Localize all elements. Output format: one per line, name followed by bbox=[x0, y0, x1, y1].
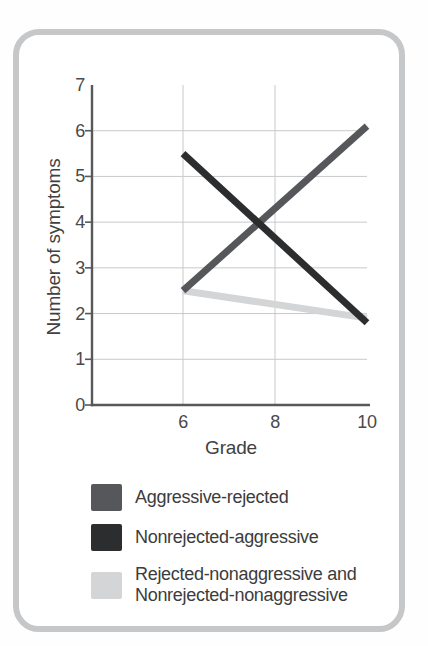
y-tick-label: 6 bbox=[45, 120, 85, 142]
x-tick-label: 10 bbox=[345, 411, 389, 433]
legend-swatch-aggressive-rejected bbox=[91, 484, 122, 511]
y-axis-title: Number of symptoms bbox=[43, 141, 65, 353]
x-axis-title: Grade bbox=[131, 437, 331, 459]
legend: Aggressive-rejected Nonrejected-aggressi… bbox=[91, 484, 356, 619]
y-tick-label: 0 bbox=[45, 394, 85, 416]
legend-label-nonrejected-aggressive: Nonrejected-aggressive bbox=[135, 527, 319, 548]
legend-label-aggressive-rejected: Aggressive-rejected bbox=[135, 487, 288, 508]
legend-item-nonaggressive-groups: Rejected-nonaggressive and Nonrejected-n… bbox=[91, 564, 356, 606]
legend-swatch-nonrejected-aggressive bbox=[91, 524, 122, 551]
x-tick-label: 8 bbox=[253, 411, 297, 433]
legend-item-aggressive-rejected: Aggressive-rejected bbox=[91, 484, 356, 511]
x-tick-label: 6 bbox=[161, 411, 205, 433]
figure-screenshot: 012345676810 Number of symptoms Grade Ag… bbox=[0, 0, 428, 646]
legend-swatch-nonaggressive-groups bbox=[91, 572, 122, 599]
legend-item-nonrejected-aggressive: Nonrejected-aggressive bbox=[91, 524, 356, 551]
legend-label-nonaggressive-groups: Rejected-nonaggressive and Nonrejected-n… bbox=[135, 564, 356, 606]
y-tick-label: 7 bbox=[45, 74, 85, 96]
